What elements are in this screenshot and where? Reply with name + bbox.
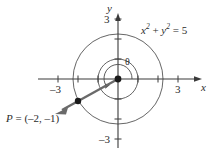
math-figure: y x 3 –3 –3 3 θ x2 + y2 = 5 P = (–2, –1): [0, 0, 213, 163]
equation-plus: +: [152, 24, 158, 36]
equation-value: 5: [182, 24, 188, 36]
theta-angle-label: θ: [125, 57, 130, 67]
y-axis-tick-label-neg3: –3: [99, 134, 110, 145]
origin-point: [115, 76, 122, 83]
x-axis-tick-label-neg3: –3: [50, 84, 61, 95]
x-axis-tick-label-3: 3: [175, 84, 181, 95]
circle-equation-label: x2 + y2 = 5: [141, 23, 187, 36]
y-axis-arrowhead: [115, 13, 121, 21]
y-axis-tick-label-3: 3: [104, 14, 110, 25]
point-p-label: P = (–2, –1): [6, 113, 59, 124]
point-p-dot: [75, 98, 81, 104]
terminal-ray: [62, 79, 118, 110]
point-p-equals: =: [15, 112, 21, 124]
point-p-coordinates: (–2, –1): [24, 112, 59, 124]
x-axis-label: x: [201, 82, 206, 93]
point-p-name: P: [6, 112, 13, 124]
